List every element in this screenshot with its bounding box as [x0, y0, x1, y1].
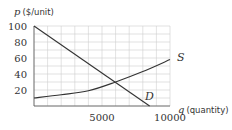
- chart: p($/unit) 100 80 60 40 20 5000 10000 q(q…: [0, 0, 232, 130]
- y-tick-60: 60: [14, 53, 27, 64]
- y-tick-20: 20: [14, 85, 27, 96]
- x-axis-label: q(quantity): [178, 104, 228, 115]
- y-axis-label: p($/unit): [14, 6, 54, 17]
- supply-label: S: [177, 51, 185, 64]
- y-tick-40: 40: [14, 69, 27, 80]
- y-tick-80: 80: [14, 37, 27, 48]
- demand-label: D: [144, 90, 154, 103]
- x-tick-5000: 5000: [89, 112, 114, 123]
- y-tick-100: 100: [8, 21, 27, 32]
